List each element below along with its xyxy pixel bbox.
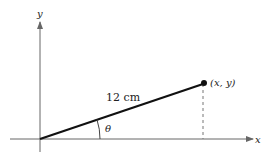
point-label: (x, y) [210, 77, 236, 88]
length-label: 12 cm [106, 91, 141, 104]
angle-label: θ [105, 123, 111, 134]
angle-arc [97, 120, 100, 139]
x-axis-label: x [255, 134, 261, 145]
y-axis-label: y [36, 8, 43, 19]
endpoint-dot [201, 80, 207, 86]
diagram-canvas: y x 12 cm θ (x, y) [0, 0, 278, 163]
